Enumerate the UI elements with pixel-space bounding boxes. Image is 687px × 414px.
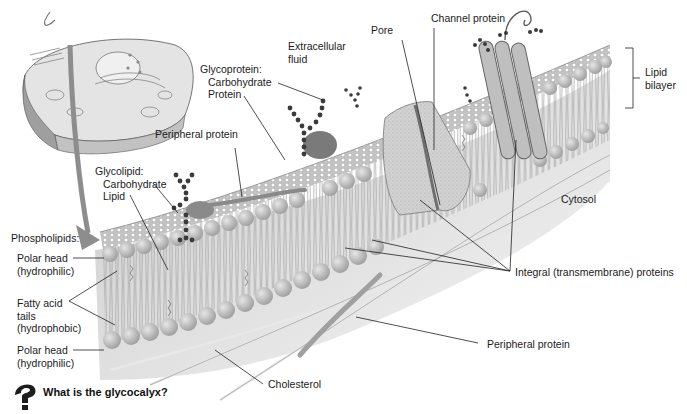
question-figure-icon [12,381,38,411]
label-cytosol: Cytosol [561,193,596,206]
label-cholesterol: Cholesterol [268,378,321,391]
label-lipid-bilayer: Lipid bilayer [645,66,676,91]
question-text: What is the glycocalyx? [43,386,168,398]
label-fatty-acid-tails: Fatty acid tails (hydrophobic) [17,297,81,335]
label-pore: Pore [371,24,393,37]
label-glycolipid: Glycolipid: Carbohydrate Lipid [95,165,167,203]
label-polar-head-top: Polar head (hydrophilic) [17,252,74,277]
label-glycoprotein: Glycoprotein: Carbohydrate Protein [200,63,272,101]
label-integral-proteins: Integral (transmembrane) proteins [515,266,674,279]
label-peripheral-protein-bottom: Peripheral protein [487,338,570,351]
label-phospholipids: Phospholipids: [11,232,79,245]
label-channel-protein: Channel protein [431,12,505,25]
label-extracellular-fluid: Extracellular fluid [288,40,346,65]
peripheral-protein-blob [303,131,337,159]
label-peripheral-protein-top: Peripheral protein [155,128,238,141]
label-polar-head-bottom: Polar head (hydrophilic) [17,344,74,369]
